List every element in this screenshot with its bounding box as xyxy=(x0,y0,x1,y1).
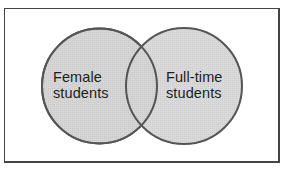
set-label-female: Female students xyxy=(53,69,109,101)
set-label-female-line-2: students xyxy=(53,85,109,101)
set-label-fulltime-line-2: students xyxy=(166,85,223,101)
venn-diagram xyxy=(0,0,289,170)
set-label-female-line-1: Female xyxy=(53,69,109,85)
set-label-fulltime-line-1: Full-time xyxy=(166,69,223,85)
set-label-fulltime: Full-time students xyxy=(166,69,223,101)
